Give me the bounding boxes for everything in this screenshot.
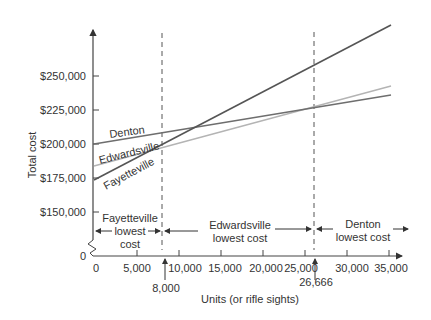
svg-text:0: 0 xyxy=(93,262,99,274)
x-tick-labels: 0 5,000 10,000 15,000 20,000 25,000 30,0… xyxy=(93,262,408,274)
region-edwardsville: Edwardsville lowest cost xyxy=(165,219,311,244)
break-even-chart: $250,000 $225,000 $200,000 $175,000 $150… xyxy=(0,0,431,320)
region-fayetteville: Fayetteville lowest cost xyxy=(96,212,160,250)
x-ticks xyxy=(137,250,389,256)
svg-text:20,000: 20,000 xyxy=(249,262,283,274)
svg-text:Fayetteville: Fayetteville xyxy=(102,212,158,224)
svg-text:$150,000: $150,000 xyxy=(40,206,86,218)
x-axis-title: Units (or rifle sights) xyxy=(201,293,299,305)
y-tick-labels: $250,000 $225,000 $200,000 $175,000 $150… xyxy=(40,70,86,262)
y-axis-title: Total cost xyxy=(26,132,38,178)
svg-text:35,000: 35,000 xyxy=(374,262,408,274)
svg-text:15,000: 15,000 xyxy=(208,262,242,274)
svg-text:$175,000: $175,000 xyxy=(40,172,86,184)
svg-text:10,000: 10,000 xyxy=(168,262,202,274)
svg-text:$250,000: $250,000 xyxy=(40,70,86,82)
svg-text:Denton: Denton xyxy=(345,218,380,230)
svg-text:$225,000: $225,000 xyxy=(40,104,86,116)
svg-text:lowest cost: lowest cost xyxy=(213,232,267,244)
label-denton: Denton xyxy=(109,123,146,140)
svg-text:lowest: lowest xyxy=(114,225,145,237)
svg-text:25,000: 25,000 xyxy=(284,262,318,274)
svg-text:cost: cost xyxy=(120,238,140,250)
region-denton: Denton lowest cost xyxy=(317,218,408,243)
svg-text:0: 0 xyxy=(80,250,86,262)
svg-text:5,000: 5,000 xyxy=(123,262,151,274)
svg-text:Edwardsville: Edwardsville xyxy=(209,219,271,231)
label-8000: 8,000 xyxy=(152,282,180,294)
svg-text:lowest cost: lowest cost xyxy=(336,231,390,243)
label-26666: 26,666 xyxy=(299,276,333,288)
axis-break-icon xyxy=(88,240,96,256)
svg-text:30,000: 30,000 xyxy=(335,262,369,274)
svg-text:$200,000: $200,000 xyxy=(40,138,86,150)
